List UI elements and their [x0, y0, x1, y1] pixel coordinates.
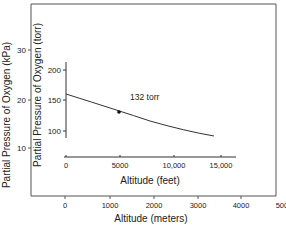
outer-ytick-label: 30	[17, 46, 26, 55]
inner-xtick-label: 15,000	[210, 161, 233, 170]
inner-x-axis-label: Altitude (feet)	[120, 175, 179, 186]
inner-ytick-label: 100	[48, 127, 62, 136]
inner-ytick-label: 150	[48, 96, 62, 105]
data-point-marker	[117, 110, 121, 114]
inner-xtick-label: 0	[64, 161, 68, 170]
outer-y-axis-label: Partial Pressure of Oxygen (kPa)	[1, 42, 12, 188]
outer-x-axis-label: Altitude (meters)	[114, 213, 187, 224]
inner-ytick-label: 200	[48, 66, 62, 75]
chart: 30 20 10 0 1000 2000 3000 4000 5000 Alti…	[0, 0, 286, 233]
outer-xtick-label: 3000	[190, 201, 207, 210]
outer-xtick-label: 4000	[233, 201, 250, 210]
outer-xtick-label: 0	[63, 201, 67, 210]
outer-ytick-label: 20	[17, 96, 26, 105]
inner-xtick-label: 10,000	[163, 161, 186, 170]
outer-x-ticks: 0 1000 2000 3000 4000 5000	[63, 196, 286, 210]
outer-y-ticks: 30 20 10	[17, 46, 31, 153]
inner-y-ticks: 200 150 100	[48, 66, 66, 136]
inner-xtick-label: 5000	[112, 161, 129, 170]
outer-xtick-label: 5000	[276, 201, 286, 210]
outer-xtick-label: 1000	[102, 201, 119, 210]
inner-y-axis-label: Partial Pressure of Oxygen (torr)	[32, 23, 43, 167]
outer-xtick-label: 2000	[146, 201, 163, 210]
outer-ytick-label: 10	[17, 144, 26, 153]
annotation-label: 132 torr	[130, 92, 159, 102]
